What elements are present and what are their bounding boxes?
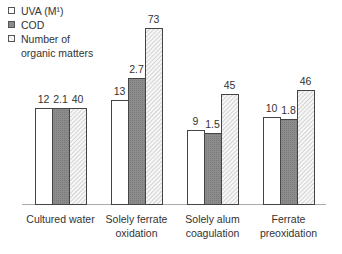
category-label: Solely ferrateoxidation [97, 212, 177, 240]
legend-item-organic: Number of organic matters [8, 32, 93, 60]
bar [205, 134, 222, 205]
value-label: 45 [218, 79, 242, 91]
bar [188, 131, 205, 205]
bar [36, 109, 53, 205]
category-label: Solely alumcoagulation [173, 212, 253, 240]
legend: UVA (M¹) COD Number of organic matters [8, 4, 93, 60]
bar [281, 120, 298, 205]
legend-label-organic-line1: Number of [21, 33, 70, 45]
legend-swatch-uva [8, 7, 15, 14]
bar [53, 109, 70, 205]
bar [146, 29, 163, 205]
legend-label-organic-line2: organic matters [21, 47, 93, 59]
legend-item-cod: COD [8, 18, 93, 32]
bar [70, 109, 87, 205]
legend-swatch-cod [8, 21, 15, 28]
value-label: 46 [294, 75, 318, 87]
bar [222, 95, 239, 205]
legend-label-uva: UVA (M¹) [21, 4, 63, 18]
value-label: 1.5 [201, 118, 225, 130]
value-label: 1.8 [277, 104, 301, 116]
legend-item-uva: UVA (M¹) [8, 4, 93, 18]
value-label: 13 [108, 85, 132, 97]
value-label: 2.7 [125, 63, 149, 75]
category-label: Cultured water [21, 212, 101, 226]
bar [129, 79, 146, 205]
bar [112, 101, 129, 205]
legend-label-organic: Number of organic matters [21, 32, 93, 60]
legend-label-cod: COD [21, 18, 44, 32]
legend-swatch-organic [8, 35, 15, 42]
bar [264, 118, 281, 205]
value-label: 40 [66, 93, 90, 105]
category-label: Ferratepreoxidation [249, 212, 329, 240]
value-label: 73 [142, 13, 166, 25]
